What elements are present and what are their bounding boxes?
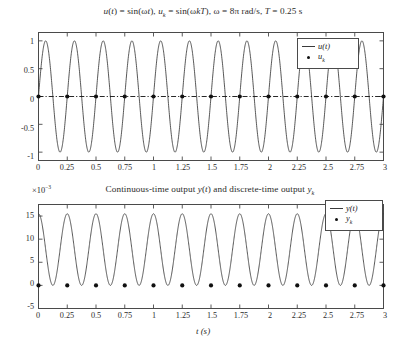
p2-legend-label-1: yk <box>344 214 352 225</box>
input-signal-panel: u(t) = sin(ωt), uk = sin(ωkT), ω = 8π ra… <box>0 0 406 178</box>
p1-legend: u(t) uk <box>297 38 359 69</box>
p2-legend-row-1: yk <box>329 214 378 225</box>
p1-legend-label-1: uk <box>316 52 325 63</box>
p2-legend-label-0: y(t) <box>344 204 358 213</box>
dot-marker-icon <box>301 56 316 59</box>
p1-legend-label-0: u(t) <box>316 42 330 51</box>
p2-legend-row-0: y(t) <box>329 203 378 214</box>
p1-plot-area <box>0 0 406 178</box>
dot-marker-icon <box>329 218 344 221</box>
x-axis-label: t (s) <box>0 326 406 336</box>
line-icon <box>301 46 316 47</box>
p1-legend-row-0: u(t) <box>301 41 354 52</box>
output-signal-panel: ×10−3 Continuous-time output y(t) and di… <box>0 178 406 358</box>
p2-legend: y(t) yk <box>325 200 383 231</box>
line-icon <box>329 208 344 209</box>
p1-legend-row-1: uk <box>301 52 354 63</box>
figure-canvas: u(t) = sin(ωt), uk = sin(ωkT), ω = 8π ra… <box>0 0 406 358</box>
